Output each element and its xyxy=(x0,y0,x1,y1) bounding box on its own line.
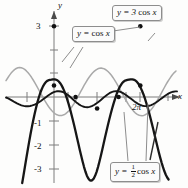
leader-line-cos xyxy=(62,47,74,62)
y-tick-label-minus1: -1 xyxy=(34,119,42,128)
leader-line-halfcos-2 xyxy=(146,104,148,161)
x-tick-label-2pi: 2π xyxy=(132,103,141,112)
leader-line-3cos xyxy=(113,27,140,31)
callout-label-half-cos-x: y = 12cos x xyxy=(110,162,160,182)
callout-cos-suffix: x xyxy=(104,28,110,38)
marked-point xyxy=(52,83,57,88)
fraction-one-half: 12 xyxy=(131,164,137,179)
fraction-numerator: 1 xyxy=(131,164,137,171)
callout-3cos-prefix: y = 3 xyxy=(117,7,138,17)
callout-halfcos-prefix: y = xyxy=(115,166,130,176)
fraction-denominator: 2 xyxy=(131,171,137,179)
x-axis-label: x xyxy=(178,92,182,101)
callout-halfcos-suffix: x xyxy=(149,166,155,176)
callout-label-3cos-x: y = 3 cos x xyxy=(112,5,162,21)
callout-3cos-cos: cos xyxy=(138,7,150,17)
y-tick-label-minus3: -3 xyxy=(34,165,42,174)
callout-label-cos-x: y = cos x xyxy=(72,26,115,42)
callout-3cos-suffix: x xyxy=(150,7,156,17)
curve-cos-x xyxy=(6,68,176,116)
leader-line-halfcos xyxy=(124,112,128,161)
y-tick-label-3: 3 xyxy=(36,22,41,31)
leader-line-3cos-tail xyxy=(148,33,155,41)
y-tick-label-minus2: -2 xyxy=(34,142,42,151)
marked-point xyxy=(138,83,143,88)
cosine-graph-figure: y x 3 -1 -2 -3 2π y = 3 cos x y = cos x … xyxy=(0,0,188,188)
callout-cos-cos: cos xyxy=(92,28,104,38)
callout-halfcos-cos: cos xyxy=(137,166,149,176)
marked-point xyxy=(73,95,77,99)
marked-point xyxy=(52,24,57,29)
marked-point xyxy=(138,24,143,29)
marked-point xyxy=(95,106,100,111)
marked-point xyxy=(116,95,120,99)
y-axis-label: y xyxy=(58,1,62,10)
y-axis-arrow-head xyxy=(51,11,57,19)
callout-cos-prefix: y = xyxy=(77,28,92,38)
curve-half-cos-x xyxy=(6,91,177,107)
